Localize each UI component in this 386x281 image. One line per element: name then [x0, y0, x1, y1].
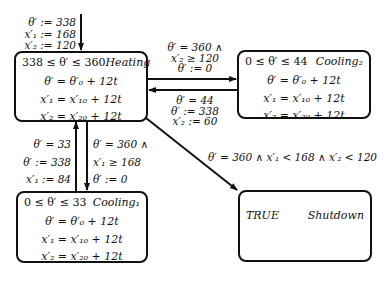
h2c1-guard-theta: θ′ = 360 ∧ [93, 136, 163, 154]
heating-flow-x1: x′₁ = x′₁₀ + 12t [16, 91, 146, 109]
c12h-reset-x1: x′₁ := 84 [14, 171, 71, 189]
cooling1-name: Cooling₁ [93, 196, 140, 209]
heating-name: Heating [106, 56, 151, 69]
c12h-reset-theta: θ′ := 338 [14, 154, 71, 172]
state-cooling1[interactable]: 0 ≤ θ′ ≤ 33 Cooling₁ θ′ = θ′₀ + 12t x′₁ … [16, 191, 148, 263]
h2c1-reset-theta: θ′ := 0 [93, 171, 163, 189]
h2c2-guard-theta: θ′ = 360 ∧ [160, 42, 230, 53]
h2c2-reset-theta: θ′ := 0 [160, 63, 230, 74]
heating-to-cooling1-label: θ′ = 360 ∧ x′₁ ≥ 168 θ′ := 0 [93, 136, 163, 189]
state-cooling2[interactable]: 0 ≤ θ′ ≤ 44 Cooling₂ θ′ = θ′₀ + 12t x′₁ … [237, 50, 371, 119]
cooling2-header: 0 ≤ θ′ ≤ 44 Cooling₂ [245, 55, 363, 68]
cooling1-flows: θ′ = θ′₀ + 12t x′₁ = x′₁₀ + 12t x′₂ = x′… [18, 213, 146, 266]
cooling2-flows: θ′ = θ′₀ + 12t x′₁ = x′₁₀ + 12t x′₂ = x′… [239, 72, 369, 125]
heating-flow-theta: θ′ = θ′₀ + 12t [16, 73, 146, 91]
c22h-reset-x2: x′₂ := 60 [160, 116, 230, 127]
state-heating[interactable]: 338 ≤ θ′ ≤ 360 Heating θ′ = θ′₀ + 12t x′… [14, 51, 148, 122]
heating-invariant: 338 ≤ θ′ ≤ 360 [22, 56, 106, 69]
shutdown-name: Shutdown [308, 209, 364, 222]
cooling2-to-heating-label: θ′ = 44 θ′ := 338 x′₂ := 60 [160, 95, 230, 127]
heating-to-shutdown-label: θ′ = 360 ∧ x′₁ < 168 ∧ x′₂ < 120 [208, 152, 377, 164]
initial-theta: θ′ := 338 [20, 17, 76, 29]
heating-flow-x2: x′₂ = x′₂₀ + 12t [16, 108, 146, 126]
cooling2-flow-x1: x′₁ = x′₁₀ + 12t [239, 90, 369, 108]
heating-to-cooling2-label: θ′ = 360 ∧ x′₂ ≥ 120 θ′ := 0 [160, 42, 230, 74]
cooling1-header: 0 ≤ θ′ ≤ 33 Cooling₁ [24, 196, 140, 209]
cooling2-flow-theta: θ′ = θ′₀ + 12t [239, 72, 369, 90]
heating-header: 338 ≤ θ′ ≤ 360 Heating [22, 56, 140, 69]
cooling2-name: Cooling₂ [316, 55, 363, 68]
heating-flows: θ′ = θ′₀ + 12t x′₁ = x′₁₀ + 12t x′₂ = x′… [16, 73, 146, 126]
c12h-guard-theta: θ′ = 33 [14, 136, 71, 154]
shutdown-header: TRUE Shutdown [246, 209, 364, 222]
initial-label: θ′ := 338 x′₁ := 168 x′₂ := 120 [20, 17, 76, 52]
cooling2-flow-x2: x′₂ = x′₂₀ + 12t [239, 107, 369, 125]
cooling1-flow-x2: x′₂ = x′₂₀ + 12t [18, 248, 146, 266]
cooling1-invariant: 0 ≤ θ′ ≤ 33 [24, 196, 87, 209]
cooling1-flow-theta: θ′ = θ′₀ + 12t [18, 213, 146, 231]
c22h-guard-theta: θ′ = 44 [160, 95, 230, 106]
cooling1-to-heating-label: θ′ = 33 θ′ := 338 x′₁ := 84 [14, 136, 71, 189]
state-shutdown[interactable]: TRUE Shutdown [238, 190, 372, 262]
h2c1-guard-x1: x′₁ ≥ 168 [93, 154, 163, 172]
initial-x2: x′₂ := 120 [20, 40, 76, 52]
shutdown-invariant: TRUE [246, 209, 279, 222]
cooling2-invariant: 0 ≤ θ′ ≤ 44 [245, 55, 308, 68]
cooling1-flow-x1: x′₁ = x′₁₀ + 12t [18, 231, 146, 249]
